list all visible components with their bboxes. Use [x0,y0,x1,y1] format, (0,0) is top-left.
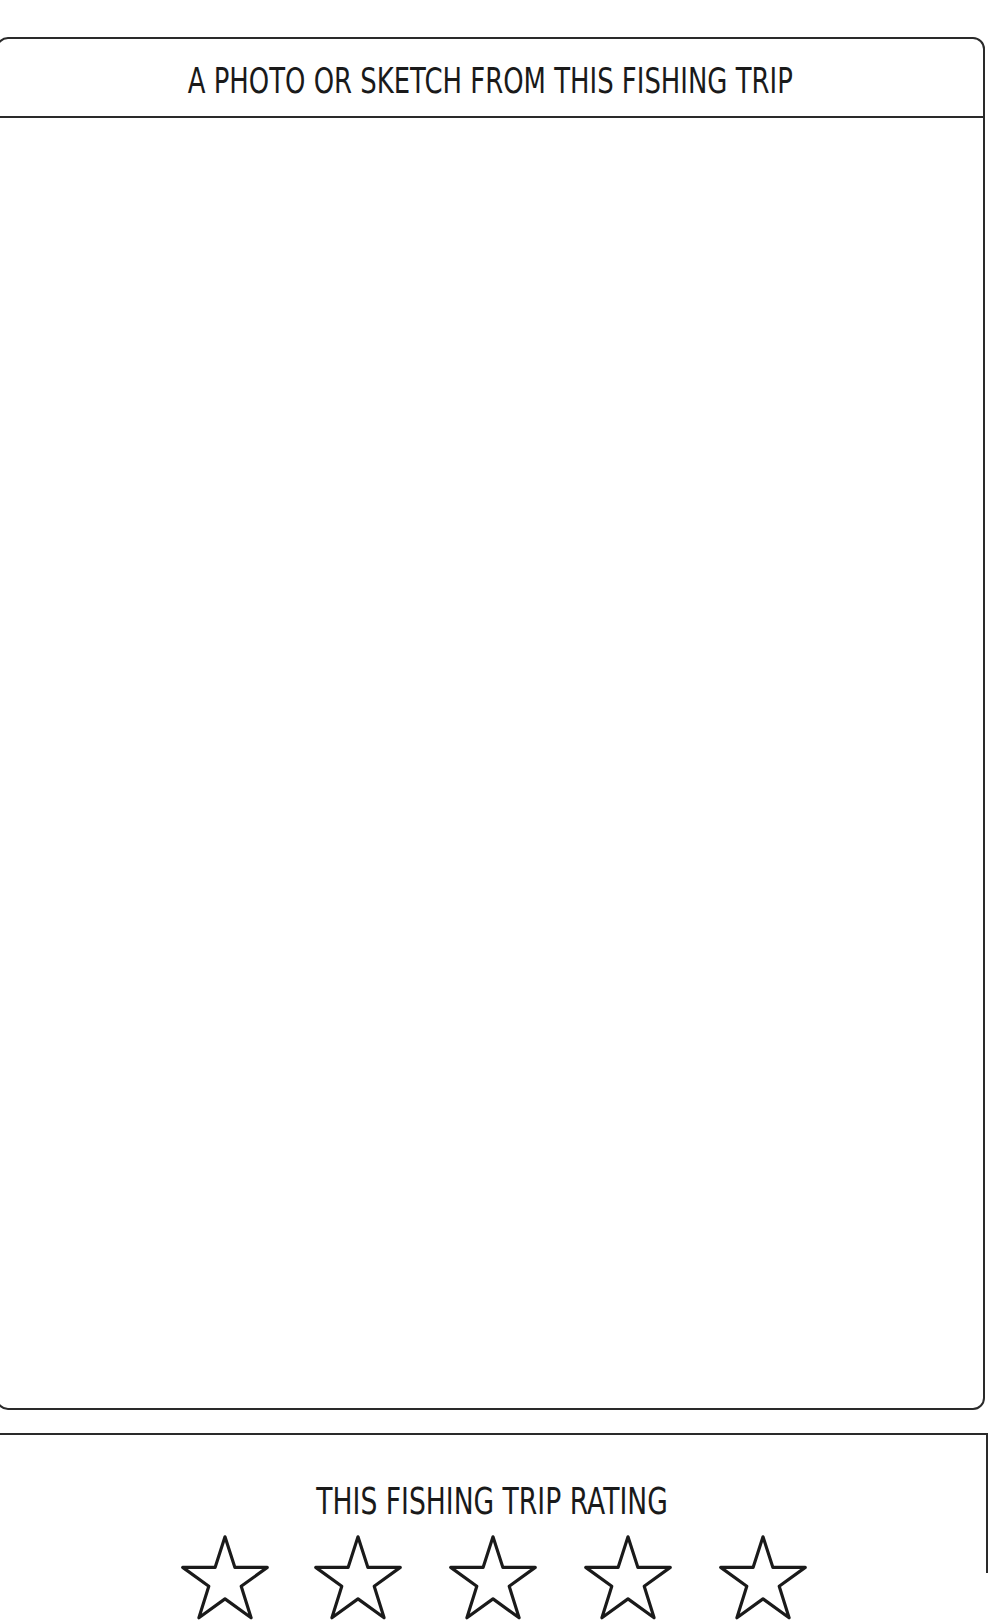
star-2-icon[interactable] [313,1535,403,1595]
rating-section-header: THIS FISHING TRIP RATING [0,1473,986,1523]
star-rating [0,1535,990,1595]
star-4-icon[interactable] [583,1535,673,1595]
star-3-icon[interactable] [448,1535,538,1595]
photo-section-header: A PHOTO OR SKETCH FROM THIS FISHING TRIP [0,39,983,118]
photo-sketch-box: A PHOTO OR SKETCH FROM THIS FISHING TRIP [0,37,985,1410]
star-5-icon[interactable] [718,1535,808,1595]
photo-section-title: A PHOTO OR SKETCH FROM THIS FISHING TRIP [188,54,793,101]
rating-section-title: THIS FISHING TRIP RATING [316,1473,667,1523]
trip-rating-box: THIS FISHING TRIP RATING [0,1433,988,1573]
star-1-icon[interactable] [180,1535,270,1595]
photo-sketch-area[interactable] [0,118,983,1408]
